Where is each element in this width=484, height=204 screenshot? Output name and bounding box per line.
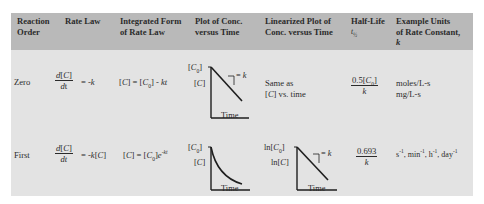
header-line: k xyxy=(396,37,460,48)
plot-y-top-label: [C0] xyxy=(188,143,202,152)
integrated-zero: [C] = [C0] - kt xyxy=(119,77,167,88)
linearized-zero: Same as [C] vs. time xyxy=(265,78,306,99)
header-linearized-plot: Linearized Plot of Conc. versus Time xyxy=(265,16,333,37)
rate-law-rhs-zero: = -k xyxy=(81,77,95,88)
half-life-first: 0.693 k xyxy=(356,146,377,167)
half-life-zero: 0.5[C0] k xyxy=(351,75,378,96)
header-half-life: Half-Life t½ xyxy=(351,16,385,37)
plot-y-top-label: [C0] xyxy=(188,63,202,72)
rate-law-rhs-first: = -k[C] xyxy=(81,150,106,161)
units-line: mg/L-s xyxy=(396,89,430,100)
rate-law-first: d[C] dt xyxy=(55,143,73,164)
plot-y-label: [C] xyxy=(194,158,205,167)
linearized-line: [C] vs. time xyxy=(265,89,306,100)
linearized-slope-label: = k xyxy=(321,149,332,158)
header-line: of Rate Constant, xyxy=(396,27,460,38)
table-header: Reaction Order Rate Law Integrated Form … xyxy=(11,13,473,50)
order-zero: Zero xyxy=(14,77,30,88)
header-rate-law: Rate Law xyxy=(65,16,101,27)
header-line: Conc. versus Time xyxy=(265,27,333,38)
header-line: Example Units xyxy=(396,16,460,27)
plot-slope-label: = k xyxy=(236,71,247,80)
header-reaction-order: Reaction Order xyxy=(17,16,49,37)
plot-x-label: Time xyxy=(221,111,238,120)
rate-law-denominator: dt xyxy=(60,81,69,91)
units-zero: moles/L-s mg/L-s xyxy=(396,78,430,99)
rate-law-numerator: d[C] xyxy=(55,143,73,154)
header-line: versus Time xyxy=(195,27,243,38)
units-line: moles/L-s xyxy=(396,78,430,89)
header-plot: Plot of Conc. versus Time xyxy=(195,16,243,37)
linearized-y-label: ln[C] xyxy=(271,158,289,167)
header-line: of Rate Law xyxy=(120,27,181,38)
linearized-line: Same as xyxy=(265,78,306,89)
units-first: s-1, min-1, h-1, day-1 xyxy=(396,150,458,161)
header-line: Linearized Plot of xyxy=(265,16,333,27)
integrated-first: [C] = [C0]e-kt xyxy=(123,150,167,161)
header-line: Order xyxy=(17,27,49,38)
header-integrated-form: Integrated Form of Rate Law xyxy=(120,16,181,37)
header-line: Half-Life xyxy=(351,16,385,27)
header-line: Rate Law xyxy=(65,16,101,27)
header-line: Reaction xyxy=(17,16,49,27)
header-example-units: Example Units of Rate Constant, k xyxy=(396,16,460,48)
plot-x-label: Time xyxy=(221,184,238,193)
rate-law-numerator: d[C] xyxy=(55,70,73,81)
plot-y-label: [C] xyxy=(194,79,205,88)
rate-law-denominator: dt xyxy=(60,154,69,164)
header-line: Integrated Form xyxy=(120,16,181,27)
order-first: First xyxy=(14,150,30,161)
header-line: Plot of Conc. xyxy=(195,16,243,27)
half-life-denominator: k xyxy=(364,157,370,167)
linearized-x-label: Time xyxy=(308,184,325,193)
half-life-denominator: k xyxy=(362,86,368,96)
rate-law-table: Reaction Order Rate Law Integrated Form … xyxy=(11,13,473,196)
half-life-numerator: 0.693 xyxy=(356,146,377,157)
half-life-numerator: 0.5[C0] xyxy=(351,75,378,86)
header-line: t½ xyxy=(351,27,385,38)
linearized-y-top-label: ln[C0] xyxy=(264,143,284,152)
rate-law-zero: d[C] dt xyxy=(55,70,73,91)
